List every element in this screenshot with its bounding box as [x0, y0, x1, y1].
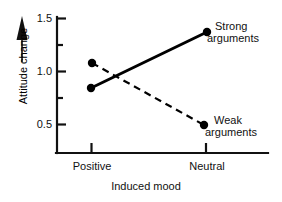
- series-strong-arguments-line: [91, 32, 207, 88]
- x-category-label-positive: Positive: [60, 160, 124, 172]
- series-weak-point-positive: [88, 59, 96, 67]
- y-axis-title-container: Attitude change: [17, 18, 33, 114]
- attitude-change-line-chart: 1.5 1.0 0.5 Positive Neutral Induced moo…: [0, 0, 282, 202]
- y-axis-title: Attitude change: [17, 18, 29, 114]
- series-label-strong-arguments-line1: Strong: [215, 20, 282, 32]
- series-label-strong-arguments-line2: arguments: [207, 32, 282, 44]
- x-category-label-neutral: Neutral: [175, 160, 239, 172]
- series-label-weak-arguments-line2: arguments: [205, 126, 282, 138]
- series-weak-arguments-line: [92, 63, 204, 125]
- series-strong-point-positive: [87, 84, 95, 92]
- series-label-weak-arguments-line1: Weak: [214, 114, 282, 126]
- y-tick-label-0point5: 0.5: [20, 118, 52, 130]
- x-axis-title: Induced mood: [86, 180, 206, 192]
